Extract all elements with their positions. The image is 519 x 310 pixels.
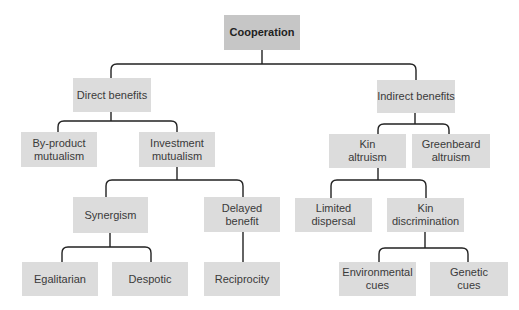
node-kin-altruism: Kin altruism: [329, 134, 406, 168]
node-egalitarian: Egalitarian: [22, 262, 98, 296]
node-limited-dispersal: Limited dispersal: [295, 198, 372, 232]
node-kin-discrimination: Kin discrimination: [387, 198, 464, 232]
node-indirect-benefits: Indirect benefits: [377, 80, 455, 113]
node-by-product-mutualism: By-product mutualism: [21, 132, 97, 167]
node-greenbeard-altruism: Greenbeard altruism: [412, 134, 490, 168]
node-reciprocity: Reciprocity: [204, 262, 280, 296]
node-cooperation: Cooperation: [224, 15, 300, 50]
node-environmental-cues: Environmental cues: [339, 262, 416, 296]
node-delayed-benefit: Delayed benefit: [204, 197, 280, 232]
node-direct-benefits: Direct benefits: [73, 78, 151, 112]
node-genetic-cues: Genetic cues: [430, 262, 508, 296]
node-investment-mutualism: Investment mutualism: [139, 132, 215, 167]
node-synergism: Synergism: [73, 197, 148, 233]
node-despotic: Despotic: [112, 262, 188, 296]
